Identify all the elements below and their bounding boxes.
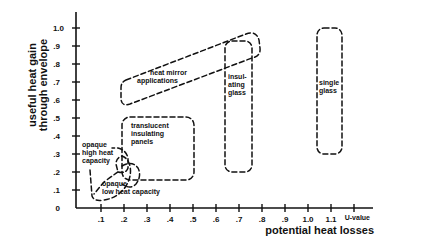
x-tick-label: .4 [167, 215, 174, 224]
x-tick-label: .8 [259, 215, 266, 224]
y-tick-label: .9 [53, 42, 60, 51]
region-label-insulating-glass-2: ating [228, 81, 245, 89]
x-tick-label: .1 [98, 215, 105, 224]
y-tick-label: .4 [53, 132, 60, 141]
y-axis-label-line2: through envelope [37, 39, 49, 131]
y-tick-label: .3 [53, 150, 60, 159]
region-translucent-panels: translucent insulating panels [122, 117, 194, 180]
x-axis-label: potential heat losses [265, 224, 374, 236]
region-label-insulating-glass-3: glass [228, 89, 246, 97]
x-axis-unit-label: U-value [345, 214, 370, 221]
region-label-heat-mirror-2: applications [137, 77, 178, 85]
x-tick-label: .2 [121, 215, 128, 224]
x-tick-label: 1.1 [325, 215, 337, 224]
region-label-opaque-low-2: low heat capacity [102, 188, 160, 196]
x-tick-label: .3 [144, 215, 151, 224]
y-tick-label: .8 [53, 60, 60, 69]
y-axis-label: useful heat gain through envelope [26, 39, 49, 131]
y-tick-label: .1 [53, 186, 60, 195]
region-label-opaque-low: opaque [102, 180, 127, 188]
region-label-translucent-3: panels [131, 138, 153, 146]
x-tick-label: .9 [282, 215, 289, 224]
x-tick-label: .6 [213, 215, 220, 224]
x-tick-label: .5 [190, 215, 197, 224]
region-label-single-glass: single [319, 79, 339, 87]
region-label-translucent-2: insulating [131, 130, 164, 138]
chart: 0 .1 .2 .3 .4 .5 .6 .7 .8 .9 1.0 .1 .2 .… [0, 0, 425, 246]
region-label-opaque-high-3: capacity [82, 157, 110, 165]
y-tick-label: .5 [53, 114, 60, 123]
region-label-translucent: translucent [131, 122, 169, 129]
x-tick-labels: .1 .2 .3 .4 .5 .6 .7 .8 .9 1.0 1.1 [98, 215, 337, 224]
x-tick-label: .7 [236, 215, 243, 224]
region-label-opaque-high-2: high heat [82, 149, 114, 157]
y-tick-labels: 0 .1 .2 .3 .4 .5 .6 .7 .8 .9 1.0 [53, 24, 65, 213]
y-tick-label: 0 [56, 204, 61, 213]
region-label-heat-mirror: heat mirror [150, 69, 187, 76]
region-label-opaque-high: opaque [82, 141, 107, 149]
region-single-glass: single glass [317, 28, 342, 154]
region-label-insulating-glass: insul- [228, 73, 247, 80]
x-tick-label: 1.0 [302, 215, 314, 224]
y-tick-label: .2 [53, 168, 60, 177]
y-tick-label: .6 [53, 96, 60, 105]
y-tick-label: 1.0 [53, 24, 65, 33]
y-tick-label: .7 [53, 78, 60, 87]
region-label-single-glass-2: glass [319, 87, 337, 95]
region-insulating-glass: insul- ating glass [225, 41, 252, 172]
